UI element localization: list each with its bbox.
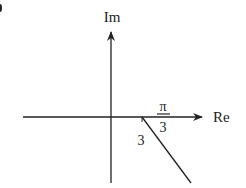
angle-denominator: 3 [160,120,167,135]
real-axis-label: Re [213,109,230,125]
angle-numerator: π [159,99,166,114]
ray-start-label: 3 [138,133,145,148]
stray-mark [0,4,2,12]
ray-line [142,117,191,183]
imag-axis-label: Im [104,9,121,25]
complex-plane-diagram: Im Re π 3 3 [0,0,246,188]
